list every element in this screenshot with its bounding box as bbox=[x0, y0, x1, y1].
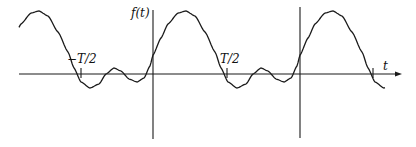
waveform-curve bbox=[19, 11, 385, 88]
periodic-function-diagram: f(t) t −T/2 T/2 bbox=[0, 0, 416, 147]
t-axis-arrow-icon bbox=[395, 72, 402, 77]
tick-label-minus-half-period: −T/2 bbox=[67, 53, 97, 65]
t-axis-label: t bbox=[383, 60, 388, 72]
plot-canvas bbox=[0, 0, 416, 147]
f-axis-label: f(t) bbox=[131, 7, 150, 19]
tick-label-half-period: T/2 bbox=[220, 53, 240, 65]
